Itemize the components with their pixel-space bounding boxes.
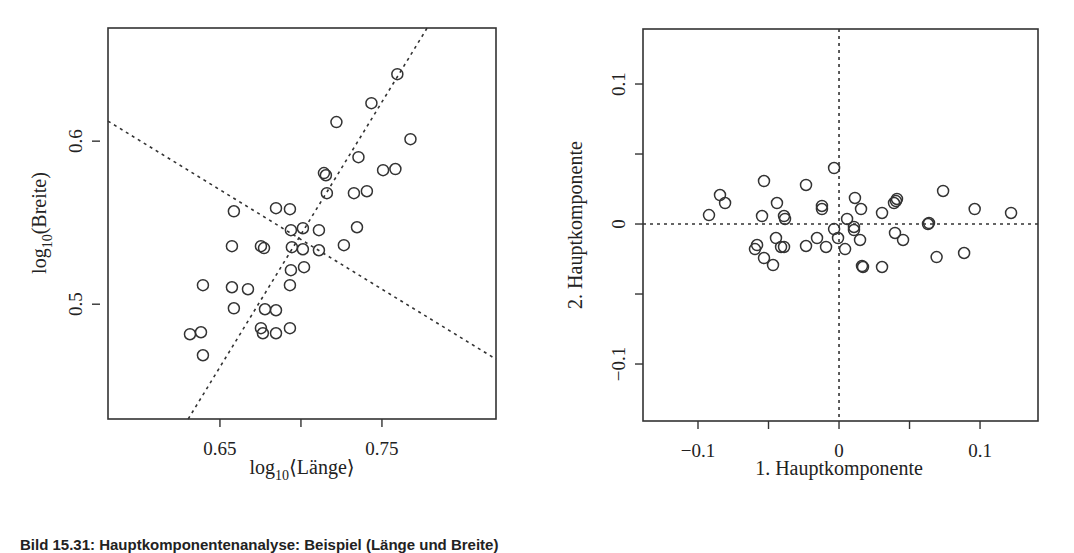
data-points xyxy=(703,163,1016,273)
data-point xyxy=(969,204,980,215)
data-point xyxy=(405,134,416,145)
data-point xyxy=(270,203,281,214)
x-tick-label: 0.75 xyxy=(365,438,398,459)
data-point xyxy=(259,243,270,254)
data-point xyxy=(758,176,769,187)
data-point xyxy=(284,204,295,215)
data-point xyxy=(1006,207,1017,218)
data-point xyxy=(195,327,206,338)
data-point xyxy=(829,163,840,174)
data-point xyxy=(313,225,324,236)
data-point xyxy=(877,207,888,218)
data-point xyxy=(390,164,401,175)
data-point xyxy=(720,198,731,209)
data-point xyxy=(285,265,296,276)
x-axis-ticks: −0.100.1 xyxy=(681,421,992,461)
y-tick-label: −0.1 xyxy=(608,347,629,381)
x-axis-ticks: 0.650.75 xyxy=(203,419,398,459)
data-point xyxy=(284,323,295,334)
data-point xyxy=(378,165,389,176)
data-point xyxy=(197,350,208,361)
first-principal-axis xyxy=(188,28,427,419)
data-point xyxy=(321,188,332,199)
data-point xyxy=(184,329,195,340)
data-point xyxy=(270,305,281,316)
data-point xyxy=(768,260,779,271)
data-point xyxy=(771,198,782,209)
x-tick-label: −0.1 xyxy=(681,440,715,461)
y-axis-ticks: 0.50.6 xyxy=(65,129,100,316)
data-point xyxy=(714,190,725,201)
data-point xyxy=(348,188,359,199)
y-tick-label: 0.6 xyxy=(65,129,86,153)
x-tick-label: 0.65 xyxy=(203,438,236,459)
x-axis-label: 1. Hauptkomponente xyxy=(755,457,923,480)
data-points xyxy=(184,69,415,361)
data-point xyxy=(338,240,349,251)
data-point xyxy=(270,328,281,339)
scatter-plot-principal-components: −0.100.1 −0.100.1 1. Hauptkomponente 2. … xyxy=(564,29,1038,480)
x-tick-label: 0.1 xyxy=(968,440,992,461)
data-point xyxy=(703,210,714,221)
y-tick-label: 0.5 xyxy=(65,292,86,316)
data-point xyxy=(855,234,866,245)
data-point xyxy=(833,233,844,244)
data-point xyxy=(959,248,970,259)
data-point xyxy=(757,211,768,222)
data-point xyxy=(286,242,297,253)
y-axis-label: 2. Hauptkomponente xyxy=(564,141,587,309)
figure-caption: Bild 15.31: Hauptkomponentenanalyse: Bei… xyxy=(20,536,498,553)
x-axis-label: log10⟨Länge⟩ xyxy=(249,456,354,483)
data-point xyxy=(840,244,851,255)
data-point xyxy=(812,233,823,244)
data-point xyxy=(821,241,832,252)
data-point xyxy=(849,192,860,203)
data-point xyxy=(938,185,949,196)
data-point xyxy=(228,206,239,217)
data-point xyxy=(801,179,812,190)
data-point xyxy=(898,234,909,245)
second-principal-axis xyxy=(108,121,496,359)
data-point xyxy=(931,252,942,263)
y-tick-label: 0.1 xyxy=(608,72,629,96)
zero-reference-lines xyxy=(643,29,1038,421)
data-point xyxy=(352,222,363,233)
data-point xyxy=(299,262,310,273)
data-point xyxy=(226,241,237,252)
scatter-plot-length-width: 0.650.75 0.50.6 log10⟨Länge⟩ log10(Breit… xyxy=(28,28,496,483)
data-point xyxy=(801,241,812,252)
y-axis-ticks: −0.100.1 xyxy=(608,72,643,381)
data-point xyxy=(284,280,295,291)
data-point xyxy=(259,304,270,315)
data-point xyxy=(366,98,377,109)
data-point xyxy=(877,262,888,273)
data-point xyxy=(856,204,867,215)
data-point xyxy=(228,303,239,314)
data-point xyxy=(353,152,364,163)
data-point xyxy=(297,244,308,255)
data-point xyxy=(331,117,342,128)
data-point xyxy=(226,282,237,293)
data-point xyxy=(361,186,372,197)
data-point xyxy=(285,225,296,236)
plot-frame xyxy=(643,29,1038,421)
y-tick-label: 0 xyxy=(608,219,629,229)
data-point xyxy=(197,280,208,291)
data-point xyxy=(749,244,760,255)
data-point xyxy=(242,284,253,295)
y-axis-label: log10(Breite) xyxy=(28,172,55,274)
